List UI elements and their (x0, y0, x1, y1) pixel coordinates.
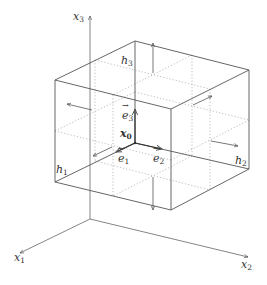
x0-label: x0 (120, 128, 132, 141)
h1-label: h1 (56, 164, 68, 177)
x2-axis-label: x2 (241, 259, 252, 272)
box-top-face (55, 41, 249, 109)
box-bottom-right-edge (171, 169, 249, 210)
back-normal-arrow (193, 96, 212, 105)
x0-point (134, 142, 136, 144)
front-normal-arrow (93, 147, 112, 156)
box-diagram: x3 x1 x2 x0 e1 e2 e3 h1 h2 h3 (0, 0, 267, 285)
e3-label: e3 (122, 110, 133, 123)
x1-axis-label: x1 (14, 252, 25, 265)
e2-label: e2 (153, 153, 164, 166)
coordinate-axes (20, 16, 248, 257)
x2-axis (90, 219, 248, 257)
box-bottom-front-edge (55, 182, 171, 210)
box-edges (55, 41, 249, 210)
right-normal-arrow (211, 141, 238, 146)
x1-axis (20, 219, 90, 253)
h2-label: h2 (235, 155, 247, 168)
dotted-midlines (55, 55, 249, 196)
e1-label: e1 (118, 153, 129, 166)
left-normal-arrow (67, 104, 92, 110)
x3-axis-label: x3 (73, 11, 84, 24)
face-normal-arrows (67, 43, 238, 210)
diagram-drawing (0, 0, 267, 285)
h3-label: h3 (121, 55, 133, 68)
